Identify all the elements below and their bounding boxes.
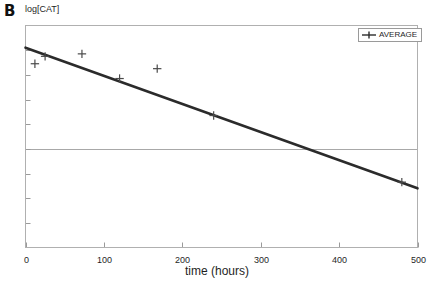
data-point-marker: [31, 60, 39, 68]
y-axis-ticks: [26, 51, 31, 224]
legend-entry-label: AVERAGE: [379, 31, 417, 39]
legend: AVERAGE: [358, 28, 422, 42]
data-point-marker: [209, 111, 217, 119]
x-axis-tick-label: 400: [332, 256, 347, 265]
x-axis-ticks: [27, 243, 419, 248]
trend-line-path: [26, 48, 418, 189]
plot-frame: [26, 26, 418, 248]
x-axis-tick-label: 300: [254, 256, 269, 265]
x-axis-label: time (hours): [0, 265, 434, 277]
plot-area: [0, 0, 434, 288]
figure-panel-b: B log[CAT] 0100200300400500 time (hours)…: [0, 0, 434, 288]
x-axis-tick-label: 100: [97, 256, 112, 265]
data-point-marker: [78, 50, 86, 58]
trend-line: [26, 48, 418, 189]
x-axis-tick-label: 500: [411, 256, 426, 265]
x-axis-tick-label: 0: [24, 256, 29, 265]
legend-marker-icon: [362, 31, 376, 39]
data-point-marker: [153, 64, 161, 72]
